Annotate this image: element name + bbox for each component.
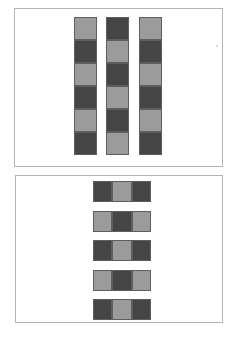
light-square — [139, 17, 162, 40]
dark-square — [112, 211, 131, 232]
horizontal-bar-1 — [93, 181, 151, 202]
dark-square — [106, 63, 129, 86]
dark-square — [93, 299, 112, 320]
light-square — [139, 109, 162, 132]
horizontal-bar-5 — [93, 299, 151, 320]
horizontal-bar-2 — [93, 211, 151, 232]
light-square — [112, 181, 131, 202]
vertical-column-2 — [106, 17, 129, 155]
light-square — [74, 109, 97, 132]
light-square — [139, 63, 162, 86]
light-square — [132, 270, 151, 291]
dark-square — [74, 132, 97, 155]
speck — [216, 45, 218, 47]
horizontal-bar-4 — [93, 270, 151, 291]
light-square — [74, 63, 97, 86]
light-square — [112, 299, 131, 320]
light-square — [106, 40, 129, 63]
dark-square — [139, 40, 162, 63]
dark-square — [93, 181, 112, 202]
dark-square — [139, 86, 162, 109]
dark-square — [139, 132, 162, 155]
light-square — [93, 211, 112, 232]
dark-square — [132, 181, 151, 202]
light-square — [106, 132, 129, 155]
bottom-panel — [15, 175, 223, 323]
dark-square — [106, 17, 129, 40]
light-square — [74, 17, 97, 40]
dark-square — [112, 270, 131, 291]
light-square — [106, 86, 129, 109]
dark-square — [74, 40, 97, 63]
light-square — [112, 240, 131, 261]
horizontal-bar-3 — [93, 240, 151, 261]
light-square — [132, 211, 151, 232]
vertical-column-1 — [74, 17, 97, 155]
dark-square — [74, 86, 97, 109]
dark-square — [132, 299, 151, 320]
dark-square — [93, 240, 112, 261]
dark-square — [132, 240, 151, 261]
vertical-column-3 — [139, 17, 162, 155]
dark-square — [106, 109, 129, 132]
top-panel — [14, 8, 223, 167]
light-square — [93, 270, 112, 291]
